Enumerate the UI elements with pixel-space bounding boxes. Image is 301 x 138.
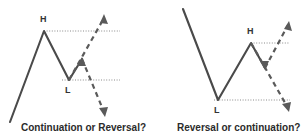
right-panel-caption: Reversal or continuation?: [177, 122, 300, 133]
right-panel: L H Reversal or continuation?: [177, 9, 300, 133]
right-bearish-reversal-arrowhead: [282, 102, 291, 112]
left-panel: H L Continuation or Reversal?: [10, 14, 146, 133]
left-bullish-continuation-arrowhead: [100, 14, 108, 24]
right-price-path: [183, 9, 265, 100]
right-bullish-continuation-arrowhead: [284, 21, 292, 31]
left-bearish-reversal-line: [82, 59, 104, 112]
right-low-pivot-label: L: [214, 105, 220, 115]
left-bearish-reversal-arrowhead: [99, 107, 108, 117]
left-panel-caption: Continuation or Reversal?: [21, 122, 146, 133]
right-high-pivot-label: H: [247, 26, 254, 36]
diagram-canvas: H L Continuation or Reversal? L H Revers…: [0, 0, 301, 138]
left-high-pivot-label: H: [40, 14, 47, 24]
technical-analysis-diagram: H L Continuation or Reversal? L H Revers…: [0, 0, 301, 138]
left-low-pivot-label: L: [65, 85, 71, 95]
right-bearish-reversal-line: [251, 43, 288, 108]
